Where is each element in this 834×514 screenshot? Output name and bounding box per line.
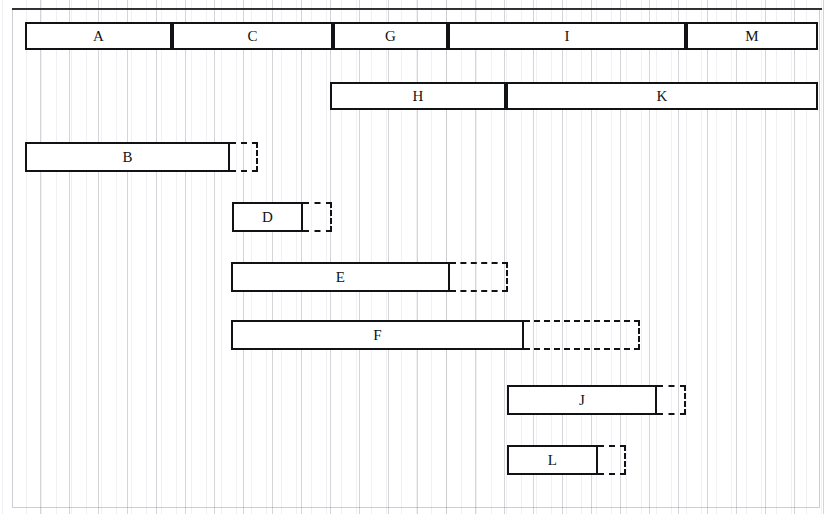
page-frame-top-rule [12,8,822,10]
task-bar-label: C [247,29,257,44]
gantt-row: ACGIM [0,22,834,50]
task-float-slack[interactable] [450,262,508,292]
task-bar[interactable]: D [232,202,303,232]
task-bar[interactable]: B [25,142,230,172]
task-bar-label: H [412,89,423,104]
task-bar[interactable]: C [172,22,333,50]
task-bar-label: L [548,453,557,468]
task-float-slack[interactable] [657,385,686,415]
task-float-slack[interactable] [230,142,258,172]
gantt-row: F [0,320,834,350]
gantt-row: B [0,142,834,172]
task-bar-label: E [336,270,345,285]
task-bar[interactable]: K [506,82,818,110]
task-bar[interactable]: H [330,82,506,110]
task-bar[interactable]: F [231,320,524,350]
task-bar-label: J [579,393,585,408]
task-bar[interactable]: I [448,22,686,50]
gantt-row: E [0,262,834,292]
task-bar[interactable]: M [686,22,818,50]
gantt-row: D [0,202,834,232]
gantt-row: J [0,385,834,415]
task-bar-label: A [93,29,104,44]
task-bar-label: D [262,210,273,225]
gantt-chart-canvas: ACGIMHKBDEFJL [0,0,834,514]
task-bar-label: I [564,29,569,44]
task-float-slack[interactable] [598,445,626,475]
task-bar[interactable]: E [231,262,450,292]
gantt-row: L [0,445,834,475]
task-float-slack[interactable] [524,320,640,350]
task-bar[interactable]: J [507,385,657,415]
task-bar-label: G [385,29,396,44]
task-bar-label: F [373,328,382,343]
task-bar[interactable]: L [507,445,598,475]
task-bar-label: B [122,150,132,165]
gantt-row: HK [0,82,834,110]
task-bar[interactable]: A [25,22,172,50]
task-bar-label: K [656,89,667,104]
task-bar-label: M [745,29,759,44]
task-bar[interactable]: G [333,22,448,50]
task-float-slack[interactable] [303,202,332,232]
